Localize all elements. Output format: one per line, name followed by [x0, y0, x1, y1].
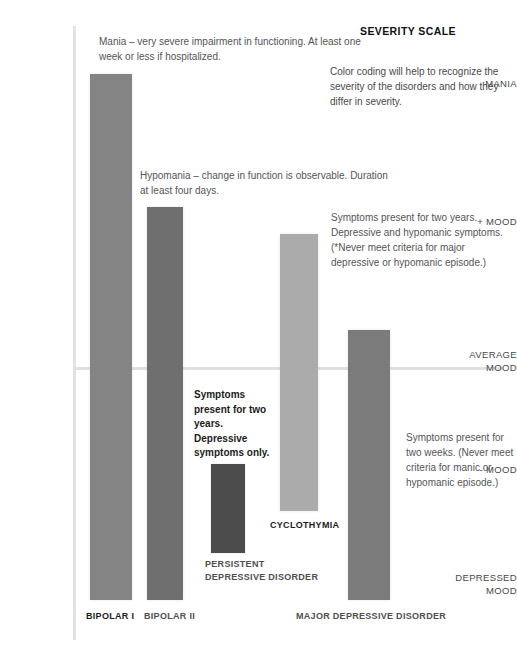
- annotation-cyclothymia: Symptoms present for two years. Depressi…: [331, 210, 511, 270]
- chart-title: SEVERITY SCALE: [360, 25, 456, 37]
- bar-label-major-depressive-disorder: MAJOR DEPRESSIVE DISORDER: [296, 610, 446, 623]
- bar-cyclothymia: [280, 234, 318, 511]
- y-axis-label-depressed-mood: DEPRESSED MOOD: [455, 572, 517, 597]
- bar-label-persistent-depressive-disorder: PERSISTENT DEPRESSIVE DISORDER: [205, 558, 320, 583]
- bar-bipolar-ii: [147, 207, 183, 600]
- bar-bipolar-i: [90, 74, 132, 600]
- annotation-mania: Mania – very severe impairment in functi…: [99, 34, 369, 64]
- vertical-axis: [73, 26, 76, 640]
- chart-description: Color coding will help to recognize the …: [330, 64, 515, 109]
- annotation-major-depressive-disorder: Symptoms present for two weeks. (Never m…: [406, 430, 516, 490]
- bar-label-cyclothymia: CYCLOTHYMIA: [270, 519, 339, 532]
- severity-scale-chart: MANIA + MOOD AVERAGE MOOD - MOOD DEPRESS…: [0, 0, 517, 661]
- bar-label-bipolar-ii: BIPOLAR II: [144, 610, 195, 623]
- annotation-hypomania: Hypomania – change in function is observ…: [140, 168, 390, 198]
- bar-persistent-depressive-disorder: [211, 464, 245, 553]
- annotation-persistent-depressive-disorder: Symptoms present for two years. Depressi…: [194, 388, 276, 461]
- y-axis-label-average-mood: AVERAGE MOOD: [455, 349, 517, 374]
- bar-major-depressive-disorder: [348, 330, 390, 600]
- bar-label-bipolar-i: BIPOLAR I: [86, 610, 134, 623]
